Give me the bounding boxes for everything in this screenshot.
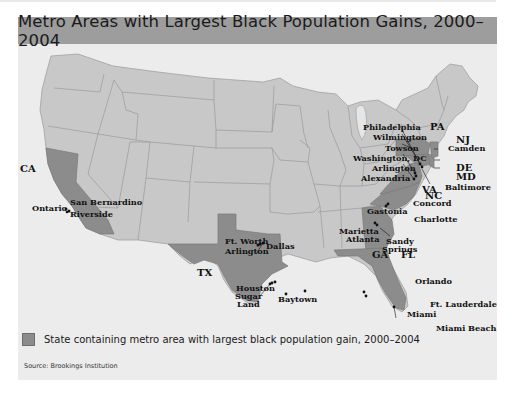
map-figure: Metro Areas with Largest Black Populatio… [18, 17, 497, 380]
city-concord: Concord [413, 199, 451, 208]
title-bar: Metro Areas with Largest Black Populatio… [18, 17, 497, 44]
city-dallas: Dallas [266, 242, 295, 251]
city-springs: Springs [382, 245, 417, 254]
city-baltimore: Baltimore [445, 183, 491, 192]
state-label-md: MD [456, 171, 476, 182]
state-fl [334, 248, 406, 310]
city-arlington-tx: Arlington [225, 247, 269, 256]
top-divider [0, 0, 496, 2]
city-philadelphia: Philadelphia [363, 123, 421, 132]
state-label-tx: TX [197, 267, 212, 278]
city-washington-dc: Washington, DC [353, 154, 427, 163]
legend-label: State containing metro area with largest… [44, 334, 420, 345]
city-charlotte: Charlotte [414, 215, 457, 224]
legend: State containing metro area with largest… [22, 333, 420, 346]
source-note: Source: Brookings Institution [24, 362, 118, 370]
city-miami-beach: Miami Beach [436, 324, 496, 333]
city-atlanta: Atlanta [346, 235, 379, 244]
state-label-pa: PA [430, 121, 445, 132]
legend-swatch [22, 333, 35, 346]
city-miami: Miami [407, 310, 436, 319]
city-riverside: Riverside [70, 210, 113, 219]
us-map: CA TX GA FL NC PA NJ DE MD VA Ontario Sa… [18, 44, 497, 344]
state-label-va: VA [422, 184, 437, 195]
state-label-ca: CA [20, 163, 36, 174]
city-arlington-va: Arlington [372, 164, 416, 173]
city-ft-worth: Ft. Worth [225, 237, 268, 246]
city-gastonia: Gastonia [367, 207, 408, 216]
city-towson: Towson [385, 144, 419, 153]
city-alexandria: Alexandria [361, 174, 410, 183]
city-baytown: Baytown [278, 295, 317, 304]
city-wilmington: Wilmington [373, 133, 427, 142]
city-san-bernardino: San Bernardino [70, 198, 142, 207]
city-land: Land [237, 300, 260, 309]
city-orlando: Orlando [415, 277, 452, 286]
city-camden: Camden [448, 144, 485, 153]
city-ontario: Ontario [32, 204, 67, 213]
city-ft-lauderdale: Ft. Lauderdale [430, 300, 497, 309]
